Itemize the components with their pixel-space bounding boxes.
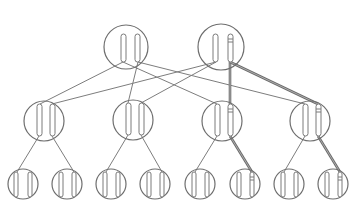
node-bar [160, 172, 164, 197]
node-bar [139, 103, 144, 135]
node-bar [228, 34, 233, 62]
node-bar [147, 172, 151, 197]
node-bar [116, 172, 120, 197]
node-bar [28, 172, 32, 197]
node-bar [14, 172, 18, 197]
node-bar [103, 172, 107, 197]
node-bar [215, 104, 220, 136]
node-bar [192, 172, 196, 197]
node-bar [303, 104, 308, 136]
node-bar [121, 34, 126, 62]
node-bar [281, 172, 285, 197]
node-bar [126, 103, 131, 135]
node-bar [294, 172, 298, 197]
node-bar [213, 34, 218, 62]
tree-diagram [0, 0, 358, 207]
node-bar [325, 172, 329, 197]
node-bar [72, 172, 76, 197]
node-bar [37, 104, 42, 136]
node-bar [135, 34, 140, 62]
node-bar [50, 104, 55, 136]
node-bar [237, 172, 241, 197]
node-bar [250, 172, 254, 197]
node-bar [338, 172, 342, 197]
node-bar [205, 172, 209, 197]
node-bar [59, 172, 63, 197]
